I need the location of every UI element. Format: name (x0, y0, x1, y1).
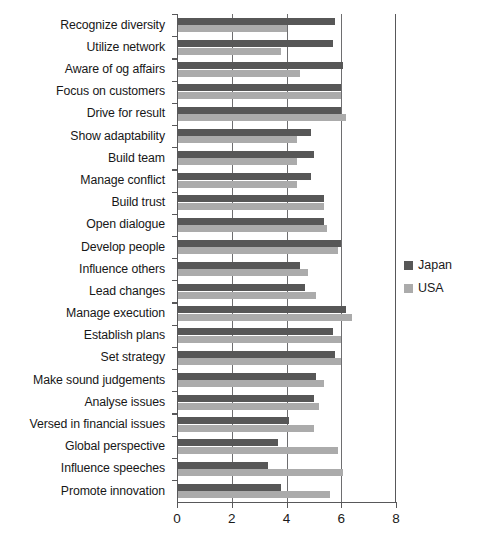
bar-japan (178, 462, 268, 469)
legend-swatch-japan (404, 261, 413, 270)
axis-tick-label: 0 (173, 511, 181, 526)
bar-japan (178, 218, 324, 225)
bar-row (178, 192, 395, 214)
bar-row (178, 480, 395, 502)
bar-japan (178, 284, 305, 291)
category-label: Versed in financial issues (0, 413, 172, 435)
bar-rows (178, 14, 395, 502)
bar-row (178, 169, 395, 191)
legend-item: USA (404, 281, 484, 295)
bar-usa (178, 136, 297, 143)
bar-usa (178, 48, 281, 55)
bar-usa (178, 247, 338, 254)
axis-tick-label: 8 (392, 511, 400, 526)
bar-japan (178, 351, 335, 358)
category-tick (170, 236, 177, 258)
bar-usa (178, 25, 287, 32)
bar-japan (178, 306, 346, 313)
bar-usa (178, 469, 343, 476)
bar-japan (178, 173, 311, 180)
bar-row (178, 325, 395, 347)
bar-usa (178, 380, 324, 387)
bar-usa (178, 181, 297, 188)
axis-tick (177, 502, 178, 508)
bar-usa (178, 425, 314, 432)
bar-japan (178, 484, 281, 491)
bar-usa (178, 225, 327, 232)
bar-row (178, 391, 395, 413)
category-axis-labels: Recognize diversityUtilize networkAware … (0, 14, 172, 502)
bar-usa (178, 358, 341, 365)
bar-row (178, 436, 395, 458)
category-label: Focus on customers (0, 81, 172, 103)
bar-usa (178, 92, 341, 99)
category-label: Influence speeches (0, 458, 172, 480)
axis-tick-label: 6 (337, 511, 345, 526)
category-tick (170, 58, 177, 80)
category-label: Develop people (0, 236, 172, 258)
category-label: Analyse issues (0, 391, 172, 413)
bar-row (178, 147, 395, 169)
category-tick (170, 125, 177, 147)
bar-japan (178, 151, 314, 158)
category-tick (170, 36, 177, 58)
bar-japan (178, 84, 341, 91)
category-label: Global perspective (0, 436, 172, 458)
bar-row (178, 236, 395, 258)
category-label: Influence others (0, 258, 172, 280)
category-tick-marks (170, 14, 177, 502)
bar-japan (178, 395, 314, 402)
bar-usa (178, 447, 338, 454)
category-label: Build team (0, 147, 172, 169)
axis-tick (341, 502, 342, 508)
category-tick (170, 258, 177, 280)
bar-row (178, 125, 395, 147)
category-tick (170, 347, 177, 369)
bar-row (178, 413, 395, 435)
bar-row (178, 81, 395, 103)
bar-row (178, 58, 395, 80)
category-label: Drive for result (0, 103, 172, 125)
category-tick (170, 103, 177, 125)
category-label: Aware of og affairs (0, 58, 172, 80)
category-label: Recognize diversity (0, 14, 172, 36)
category-label: Make sound judgements (0, 369, 172, 391)
bar-japan (178, 62, 343, 69)
category-tick (170, 436, 177, 458)
bar-japan (178, 240, 341, 247)
bar-usa (178, 292, 316, 299)
category-tick (170, 214, 177, 236)
bar-japan (178, 439, 278, 446)
bar-usa (178, 403, 319, 410)
bar-row (178, 14, 395, 36)
bar-japan (178, 129, 311, 136)
bar-row (178, 280, 395, 302)
bar-japan (178, 417, 289, 424)
value-axis: 02468 (177, 502, 396, 514)
legend-item: Japan (404, 258, 484, 272)
bar-usa (178, 491, 330, 498)
category-label: Manage execution (0, 302, 172, 324)
category-tick (170, 369, 177, 391)
category-tick (170, 458, 177, 480)
bar-row (178, 36, 395, 58)
category-tick (170, 391, 177, 413)
bar-japan (178, 40, 333, 47)
bar-usa (178, 114, 346, 121)
bar-japan (178, 195, 324, 202)
category-label: Set strategy (0, 347, 172, 369)
legend-label: USA (418, 281, 444, 295)
bar-usa (178, 203, 324, 210)
bar-usa (178, 314, 352, 321)
bar-japan (178, 107, 341, 114)
axis-tick (287, 502, 288, 508)
axis-tick (396, 502, 397, 508)
bar-row (178, 369, 395, 391)
category-label: Manage conflict (0, 169, 172, 191)
axis-tick-label: 2 (228, 511, 236, 526)
bar-row (178, 214, 395, 236)
bar-row (178, 258, 395, 280)
category-label: Establish plans (0, 325, 172, 347)
category-tick (170, 14, 177, 36)
bar-usa (178, 336, 341, 343)
